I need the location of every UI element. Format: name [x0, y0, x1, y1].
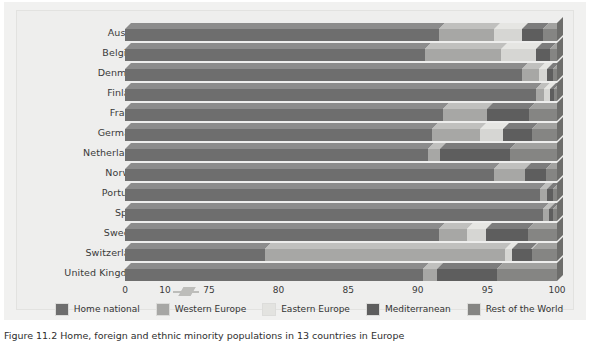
bar-row: Switzerland — [33, 243, 585, 263]
bar-segment-face — [536, 89, 544, 101]
bar-segment-face — [480, 129, 502, 141]
bar-segment — [494, 29, 522, 41]
bar-segment — [125, 69, 522, 81]
bar-segment-top — [125, 103, 449, 109]
bar-segment-top — [440, 143, 516, 149]
legend-item: Mediterranean — [366, 303, 451, 316]
bar-segment-face — [532, 129, 557, 141]
bar-segment-face — [467, 229, 486, 241]
bar-segment-top — [125, 23, 445, 29]
bar-rows: AustriaBelgiumDenmarkFinlandFranceGerman… — [33, 23, 585, 285]
bar-segment-top — [510, 143, 563, 149]
bar-segment-face — [540, 189, 547, 201]
bar-segment — [125, 109, 443, 121]
bar-segment-face — [522, 29, 543, 41]
bar-row: Finland — [33, 83, 585, 103]
bar-segment-face — [543, 29, 557, 41]
bar-segment-face — [443, 109, 488, 121]
bar-segment-face — [528, 229, 557, 241]
bar-segment — [443, 109, 488, 121]
bar-segment-face — [510, 149, 557, 161]
bar-segment — [546, 169, 557, 181]
legend-item: Western Europe — [156, 303, 246, 316]
bar-segment-top — [125, 83, 542, 89]
legend-swatch — [156, 303, 170, 316]
bar-segment — [529, 109, 557, 121]
bar-segment — [501, 49, 536, 61]
legend-swatch — [262, 303, 276, 316]
legend-label: Rest of the World — [486, 304, 563, 314]
bar-segment-top — [425, 43, 508, 49]
bar-segment-face — [505, 249, 512, 261]
bar-row: Germany — [33, 123, 585, 143]
bar-segment-face — [497, 269, 557, 281]
figure-root: AustriaBelgiumDenmarkFinlandFranceGerman… — [0, 0, 590, 347]
bar-segment — [505, 249, 512, 261]
bar-segment-face — [125, 89, 536, 101]
bar-segment — [125, 129, 432, 141]
bar-segment — [440, 149, 510, 161]
bar-segment-face — [487, 109, 529, 121]
bar-segment — [480, 129, 502, 141]
bar-segment-top — [125, 183, 546, 189]
bar-segment-face — [428, 149, 441, 161]
bar-segment-face — [539, 69, 547, 81]
bar-segment — [125, 89, 536, 101]
bar-segment — [525, 169, 546, 181]
legend-label: Western Europe — [175, 304, 246, 314]
bar-segment-face — [522, 69, 539, 81]
bar-row: Portugal — [33, 183, 585, 203]
legend-swatch — [366, 303, 380, 316]
bar-segment-face — [486, 229, 528, 241]
bar-segment-face — [125, 109, 443, 121]
bar-segment-face — [125, 129, 432, 141]
bar-segment-top — [439, 23, 501, 29]
bar-segment-top — [125, 203, 549, 209]
x-tick-label: 80 — [273, 285, 284, 295]
bar-segment-face — [432, 129, 481, 141]
bar-segment — [125, 229, 439, 241]
bar-segment — [265, 249, 506, 261]
bar-row: Spain — [33, 203, 585, 223]
bar-segment — [432, 129, 481, 141]
bar-segment-face — [125, 249, 265, 261]
legend-swatch — [467, 303, 481, 316]
bar-segment-top — [443, 103, 494, 109]
legend-item: Eastern Europe — [262, 303, 350, 316]
bar-segment — [497, 269, 557, 281]
bar-segment-top — [125, 163, 500, 169]
chart-legend: Home nationalWestern EuropeEastern Europ… — [33, 301, 585, 317]
bar-segment — [536, 49, 550, 61]
x-tick-label: 90 — [412, 285, 423, 295]
bar-segment — [428, 149, 441, 161]
bar-segment — [467, 229, 486, 241]
bar-segment — [494, 169, 525, 181]
bar-row: Sweden — [33, 223, 585, 243]
bar-segment-face — [125, 169, 494, 181]
bar-segment-face — [265, 249, 506, 261]
bar-segment-face — [125, 29, 439, 41]
bar-segment — [439, 229, 467, 241]
bar-segment — [125, 149, 428, 161]
figure-caption: Figure 11.2 Home, foreign and ethnic min… — [4, 330, 586, 341]
bar-row: France — [33, 103, 585, 123]
bar-segment-face — [125, 269, 423, 281]
bar-segment-face — [439, 29, 495, 41]
bar-segment-face — [437, 269, 497, 281]
legend-label: Mediterranean — [385, 304, 451, 314]
bar-segment-top — [497, 263, 563, 269]
bar-segment-face — [529, 109, 557, 121]
bar-segment — [125, 269, 423, 281]
bar-segment-face — [494, 169, 525, 181]
x-tick-label: 100 — [548, 285, 565, 295]
bar-segment — [125, 169, 494, 181]
bar-segment — [125, 189, 540, 201]
bar-segment-face — [503, 129, 532, 141]
bar-segment — [512, 249, 531, 261]
bar-segment-face — [125, 189, 540, 201]
bar-segment — [532, 249, 557, 261]
bar-segment-face — [512, 249, 531, 261]
bar-segment-top — [437, 263, 503, 269]
bar-segment-face — [425, 49, 502, 61]
chart-panel: AustriaBelgiumDenmarkFinlandFranceGerman… — [16, 10, 574, 310]
